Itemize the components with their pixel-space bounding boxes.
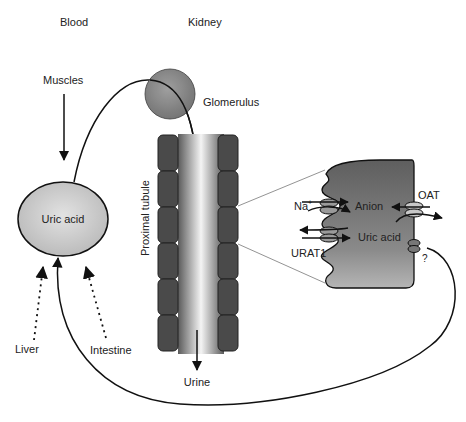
tubule-lumen <box>178 134 224 354</box>
urine-label: Urine <box>184 376 210 388</box>
glomerulus <box>145 69 195 119</box>
unknown-label: ? <box>422 253 428 264</box>
anion-label: Anion <box>355 200 383 212</box>
intestine-label: Intestine <box>90 344 132 356</box>
tubular-cell <box>321 160 414 288</box>
intestine-arrow <box>86 267 106 338</box>
pool-label: Uric acid <box>42 213 85 225</box>
oat-label: OAT <box>418 189 440 201</box>
unknown-transporter <box>408 240 420 253</box>
liver-label: Liver <box>15 343 39 355</box>
tubule-left-wall <box>158 135 178 351</box>
proximal-tubule-label: Proximal tubule <box>139 180 151 256</box>
tubule-right-wall <box>218 135 238 351</box>
kidney-label: Kidney <box>188 16 222 28</box>
uric-acid-diagram: Blood Kidney Muscles Uric acid Glomerulu… <box>0 0 466 422</box>
blood-label: Blood <box>60 16 88 28</box>
urat1-label: URAT1 <box>291 247 326 259</box>
muscles-label: Muscles <box>43 74 84 86</box>
liver-arrow <box>34 267 43 340</box>
uric-acid-cell-label: Uric acid <box>358 231 401 243</box>
glomerulus-label: Glomerulus <box>203 96 260 108</box>
